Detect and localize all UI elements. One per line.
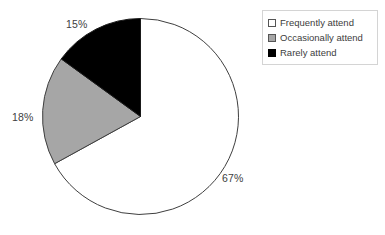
chart-legend: Frequently attend Occasionally attend Ra… [262, 10, 378, 65]
legend-label-rarely: Rarely attend [280, 47, 337, 58]
legend-swatch-occasionally [268, 34, 276, 42]
legend-swatch-frequently [268, 19, 276, 27]
pie-label-frequently: 67% [222, 172, 243, 184]
legend-item-frequently[interactable]: Frequently attend [268, 15, 372, 30]
pie-label-occasionally: 18% [12, 111, 33, 123]
pie-chart-figure: 15% 18% 67% Frequently attend Occasional… [0, 0, 385, 235]
legend-item-rarely[interactable]: Rarely attend [268, 45, 372, 60]
legend-swatch-rarely [268, 49, 276, 57]
legend-label-occasionally: Occasionally attend [280, 32, 363, 43]
legend-item-occasionally[interactable]: Occasionally attend [268, 30, 372, 45]
legend-label-frequently: Frequently attend [280, 17, 354, 28]
pie-label-rarely: 15% [66, 18, 87, 30]
